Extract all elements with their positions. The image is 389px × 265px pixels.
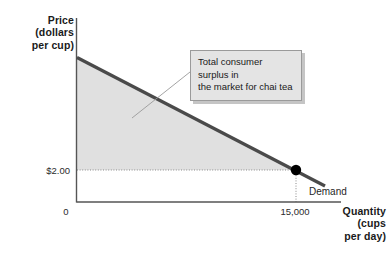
equilibrium-point-marker [291, 165, 301, 175]
x-axis-tick-label-quantity: 15,000 [266, 206, 324, 217]
demand-curve-label: Demand [309, 186, 369, 198]
x-axis-title: Quantity (cups per day) [330, 205, 386, 242]
consumer-surplus-callout-text: Total consumer surplus in the market for… [198, 56, 295, 94]
y-axis-tick-label-price: $2.00 [26, 165, 70, 176]
consumer-surplus-chart: Price (dollars per cup) $2.00 0 15,000 Q… [0, 0, 389, 265]
axis-origin-label: 0 [56, 206, 76, 217]
consumer-surplus-callout-box: Total consumer surplus in the market for… [190, 50, 302, 101]
y-axis-title: Price (dollars per cup) [12, 14, 74, 51]
